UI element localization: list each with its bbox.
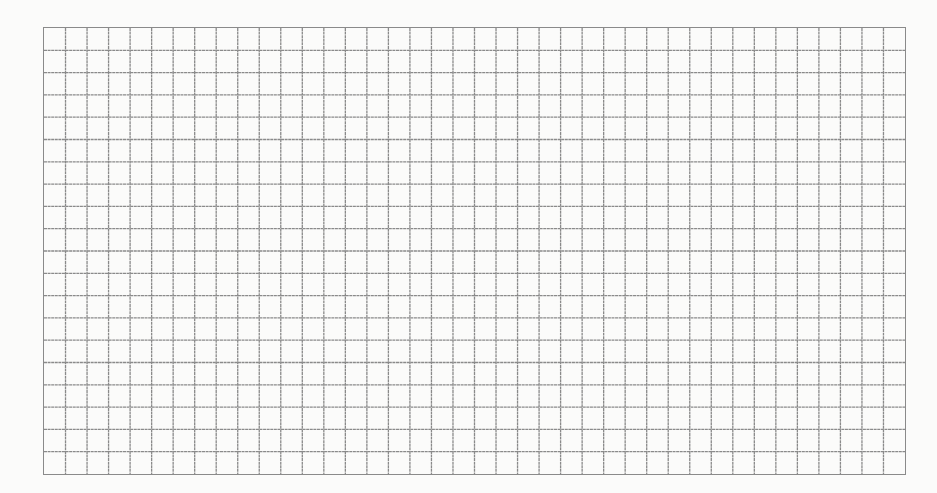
grid-lines bbox=[44, 28, 905, 474]
graph-paper-grid bbox=[43, 27, 906, 475]
grid-paper-page bbox=[0, 0, 937, 493]
